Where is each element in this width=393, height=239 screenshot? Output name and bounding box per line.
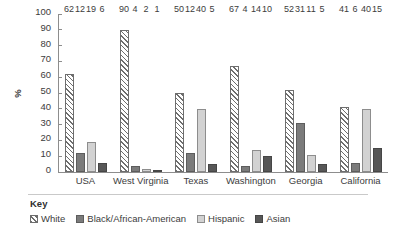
bar-column: 5: [208, 14, 217, 172]
y-axis-tick-label: 80: [40, 39, 51, 49]
y-axis-tick-label: 30: [40, 118, 51, 128]
bar-value-label: 50: [174, 4, 184, 14]
bar-groups: 6212196904215012405674141052311154164015: [58, 14, 388, 172]
bar-group: 5012405: [168, 14, 223, 172]
bar-group: 5231115: [278, 14, 333, 172]
bar-column: 5: [318, 14, 327, 172]
chart-legend: Key WhiteBlack/African-AmericanHispanicA…: [30, 198, 385, 224]
bar-value-label: 41: [339, 4, 349, 14]
legend-item[interactable]: Hispanic: [197, 213, 244, 224]
legend-item[interactable]: Asian: [255, 213, 290, 224]
bar[interactable]: 15: [373, 148, 382, 172]
bar[interactable]: 52: [285, 90, 294, 172]
bar-column: 90: [120, 14, 129, 172]
bar[interactable]: 12: [186, 153, 195, 172]
bar[interactable]: 62: [65, 74, 74, 172]
bar-column: 62: [65, 14, 74, 172]
bar-column: 12: [76, 14, 85, 172]
bar[interactable]: 41: [340, 107, 349, 172]
legend-swatch-icon: [76, 215, 84, 223]
bar-column: 12: [186, 14, 195, 172]
y-axis-tick-label: 60: [40, 70, 51, 80]
legend-swatch-icon: [30, 215, 38, 223]
bar[interactable]: 50: [175, 93, 184, 172]
y-axis-tick-label: 0: [46, 165, 51, 175]
bar[interactable]: 5: [208, 164, 217, 172]
x-axis-tick-label: Washington: [223, 175, 278, 187]
legend-item-label: Hispanic: [208, 213, 244, 224]
bar-column: 6: [351, 14, 360, 172]
x-axis-tick-label: Georgia: [278, 175, 333, 187]
bar-value-label: 67: [229, 4, 239, 14]
bar[interactable]: 6: [98, 163, 107, 172]
bar-value-label: 11: [306, 4, 315, 14]
bar-value-label: 4: [132, 4, 137, 14]
legend-item[interactable]: White: [30, 213, 65, 224]
bar-value-label: 2: [143, 4, 148, 14]
bar[interactable]: 4: [131, 166, 140, 172]
legend-item[interactable]: Black/African-American: [76, 213, 186, 224]
bar[interactable]: 5: [318, 164, 327, 172]
bar-value-label: 19: [86, 4, 96, 14]
bar-value-label: 1: [154, 4, 159, 14]
bar-value-label: 40: [361, 4, 371, 14]
bar-column: 4: [131, 14, 140, 172]
legend-title: Key: [30, 198, 385, 210]
bar[interactable]: 14: [252, 150, 261, 172]
y-axis-tick-label: 10: [40, 149, 51, 159]
bar-column: 50: [175, 14, 184, 172]
bar[interactable]: 11: [307, 155, 316, 172]
bar-value-label: 62: [64, 4, 74, 14]
y-axis-tick-label: 70: [40, 54, 51, 64]
bar-value-label: 52: [284, 4, 294, 14]
y-axis: 1009080706050403020100: [0, 14, 58, 173]
bar[interactable]: 10: [263, 156, 272, 172]
x-axis-tick-labels: USAWest VirginiaTexasWashingtonGeorgiaCa…: [58, 175, 388, 187]
bar[interactable]: 90: [120, 30, 129, 172]
bar[interactable]: 31: [296, 123, 305, 172]
bar[interactable]: 40: [362, 109, 371, 172]
bar-column: 2: [142, 14, 151, 172]
x-axis-line: [58, 172, 388, 173]
bar-value-label: 10: [262, 4, 272, 14]
legend-item-list: WhiteBlack/African-AmericanHispanicAsian: [30, 213, 385, 224]
legend-swatch-icon: [255, 215, 263, 223]
legend-divider: [28, 194, 368, 195]
bar-group: 4164015: [333, 14, 388, 172]
bar-value-label: 5: [209, 4, 214, 14]
bar-column: 14: [252, 14, 261, 172]
bar[interactable]: 19: [87, 142, 96, 172]
bar[interactable]: 4: [241, 166, 250, 172]
bar[interactable]: 40: [197, 109, 206, 172]
bar-value-label: 12: [75, 4, 85, 14]
bar-value-label: 5: [319, 4, 324, 14]
bar-column: 52: [285, 14, 294, 172]
bar[interactable]: 6: [351, 163, 360, 172]
bar-column: 41: [340, 14, 349, 172]
bar[interactable]: 67: [230, 66, 239, 172]
legend-item-label: White: [41, 213, 65, 224]
y-axis-tick-label: 50: [40, 86, 51, 96]
bar[interactable]: 12: [76, 153, 85, 172]
bar-value-label: 6: [352, 4, 357, 14]
bar-column: 11: [307, 14, 316, 172]
y-axis-tick-label: 90: [40, 23, 51, 33]
bar-group: 6741410: [223, 14, 278, 172]
x-axis-tick-label: USA: [58, 175, 113, 187]
bar-column: 40: [362, 14, 371, 172]
bar[interactable]: 2: [142, 169, 151, 172]
bar[interactable]: 1: [153, 170, 162, 172]
legend-item-label: Black/African-American: [87, 213, 186, 224]
bar-value-label: 6: [99, 4, 104, 14]
bar-column: 67: [230, 14, 239, 172]
bar-value-label: 14: [251, 4, 261, 14]
bar-value-label: 40: [196, 4, 206, 14]
x-axis-tick-label: Texas: [169, 175, 224, 187]
legend-item-label: Asian: [266, 213, 290, 224]
bar-value-label: 4: [242, 4, 247, 14]
bar-column: 31: [296, 14, 305, 172]
bar-column: 1: [153, 14, 162, 172]
bar-column: 40: [197, 14, 206, 172]
x-axis-tick-label: West Virginia: [113, 175, 169, 187]
bar-value-label: 12: [185, 4, 195, 14]
